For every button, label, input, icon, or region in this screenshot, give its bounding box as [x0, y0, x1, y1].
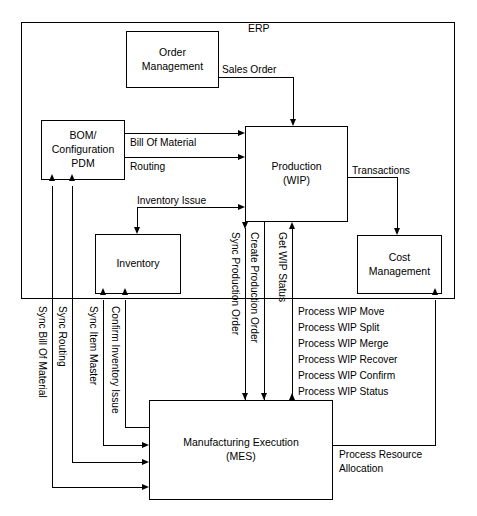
flow-label-process-resource-allocation-line2: Allocation: [339, 462, 383, 476]
wip-message-2: Process WIP Merge: [298, 337, 388, 351]
flow-process-resource-allocation-arrowhead: [432, 288, 438, 295]
flow-sync-bill-of-material-v: [52, 186, 53, 487]
flow-get-wip-status-arrowhead-top: [289, 222, 295, 229]
flow-sync-routing-v: [72, 186, 73, 462]
flow-sync-production-order-arrowhead-top: [242, 222, 248, 229]
wip-message-0: Process WIP Move: [298, 305, 384, 319]
erp-boundary-label: ERP: [248, 22, 270, 34]
flow-label-get-wip-status: Get WIP Status: [277, 232, 288, 302]
flow-sales-order-h: [219, 77, 293, 78]
order-management-label-line2: Management: [142, 60, 203, 74]
flow-process-resource-allocation-v: [435, 300, 436, 445]
flow-label-bill-of-material: Bill Of Material: [130, 136, 196, 150]
flow-sync-production-order-arrowhead-bottom: [242, 393, 248, 400]
flow-inventory-issue-v: [137, 207, 138, 227]
flow-routing-arrowhead: [238, 154, 245, 160]
box-order-management[interactable]: Order Management: [126, 31, 219, 88]
flow-label-sync-bill-of-material: Sync Bill Of Material: [37, 306, 48, 398]
flow-process-resource-allocation-h: [333, 445, 436, 446]
flow-create-production-order-arrowhead: [261, 393, 267, 400]
flow-label-sync-production-order: Sync Production Order: [230, 232, 241, 335]
flow-label-inventory-issue: Inventory Issue: [137, 194, 206, 208]
flow-inventory-issue-arrowhead-inventory: [134, 227, 140, 234]
bom-label-line2: Configuration: [52, 143, 114, 157]
flow-label-create-production-order: Create Production Order: [249, 232, 260, 343]
mes-label-line1: Manufacturing Execution: [183, 436, 299, 450]
bom-label-line3: PDM: [52, 157, 114, 171]
flow-confirm-inventory-issue-h: [125, 427, 150, 428]
box-inventory[interactable]: Inventory: [95, 234, 181, 294]
flow-bill-of-material-h: [125, 133, 238, 134]
flow-bill-of-material-arrowhead: [238, 130, 245, 136]
wip-message-4: Process WIP Confirm: [298, 369, 395, 383]
mes-label-line2: (MES): [183, 450, 299, 464]
flow-create-production-order-line: [264, 222, 265, 400]
flow-label-routing: Routing: [130, 160, 165, 174]
flow-sync-routing-h: [72, 462, 146, 463]
flow-sync-item-master-v: [103, 300, 104, 445]
flow-label-process-resource-allocation-line1: Process Resource: [339, 448, 422, 462]
cost-management-label-line1: Cost: [369, 251, 430, 265]
flow-transactions-v: [397, 177, 398, 228]
flow-label-sales-order: Sales Order: [222, 63, 276, 77]
order-management-label-line1: Order: [142, 46, 203, 60]
flow-sync-item-master-arrowhead-top: [100, 288, 106, 295]
flow-get-wip-status-line: [292, 228, 293, 400]
production-label-line1: Production: [271, 160, 321, 174]
flow-sync-routing-arrowhead-top: [69, 174, 75, 181]
flow-sales-order-arrowhead: [290, 119, 296, 126]
flow-sync-bill-of-material-arrowhead-mes: [142, 484, 149, 490]
wip-message-3: Process WIP Recover: [298, 353, 397, 367]
bom-label-line1: BOM/: [52, 129, 114, 143]
flow-label-sync-item-master: Sync Item Master: [88, 306, 99, 385]
flow-get-wip-status-arrowhead-bottom: [289, 393, 295, 400]
flow-inventory-issue-arrowhead-production: [238, 204, 245, 210]
box-bom-configuration-pdm[interactable]: BOM/ Configuration PDM: [41, 120, 125, 180]
diagram-canvas: ERP Order Management BOM/ Configuration …: [0, 0, 477, 516]
inventory-label: Inventory: [116, 257, 159, 271]
flow-sync-bill-of-material-h: [52, 487, 146, 488]
cost-management-label-line2: Management: [369, 265, 430, 279]
box-cost-management[interactable]: Cost Management: [357, 235, 442, 294]
flow-transactions-arrowhead: [394, 228, 400, 235]
flow-sync-production-order-line: [245, 228, 246, 400]
flow-routing-h: [125, 157, 238, 158]
flow-sync-routing-arrowhead-mes: [142, 459, 149, 465]
wip-message-1: Process WIP Split: [298, 321, 379, 335]
box-manufacturing-execution-mes[interactable]: Manufacturing Execution (MES): [149, 400, 333, 500]
production-label-line2: (WIP): [271, 174, 321, 188]
wip-message-5: Process WIP Status: [298, 385, 388, 399]
flow-label-confirm-inventory-issue: Confirm Inventory Issue: [110, 306, 121, 414]
flow-sync-bill-of-material-arrowhead-top: [49, 174, 55, 181]
flow-label-sync-routing: Sync Routing: [57, 306, 68, 367]
flow-confirm-inventory-issue-arrowhead: [122, 288, 128, 295]
flow-sales-order-v: [293, 77, 294, 119]
flow-label-transactions: Transactions: [352, 164, 410, 178]
flow-sync-item-master-arrowhead-mes: [142, 442, 149, 448]
box-production-wip[interactable]: Production (WIP): [245, 126, 348, 222]
flow-confirm-inventory-issue-v: [125, 300, 126, 427]
flow-sync-item-master-h: [103, 445, 146, 446]
